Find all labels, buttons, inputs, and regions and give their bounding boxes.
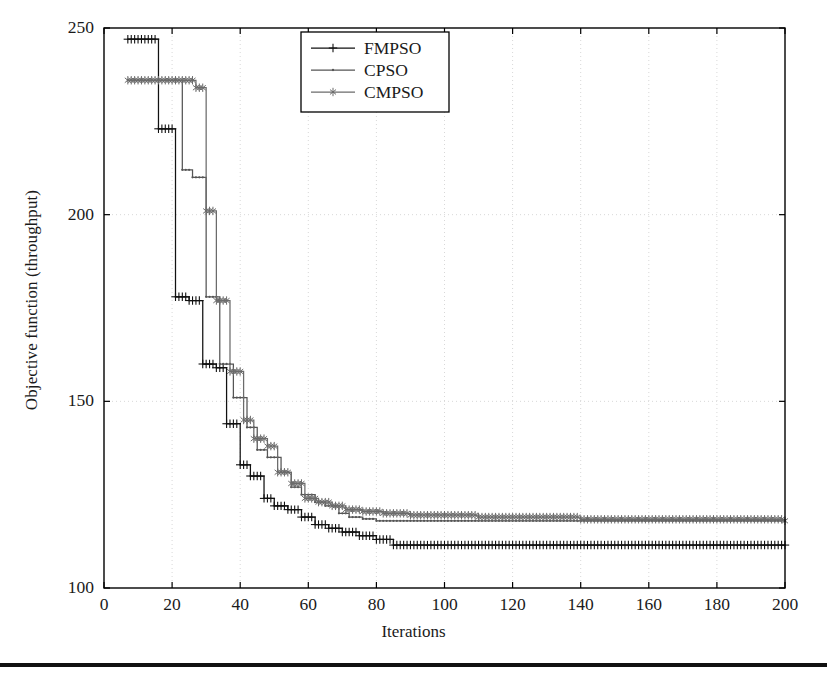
x-tick-label-140: 140: [551, 594, 611, 615]
chart-legend: FMPSOCPSOCMPSO: [301, 32, 449, 112]
x-tick-label-120: 120: [483, 594, 543, 615]
legend-label-fmpso: FMPSO: [364, 38, 421, 58]
series-fmpso: [124, 35, 790, 549]
x-tick-label-20: 20: [142, 594, 202, 615]
legend-label-cmpso: CMPSO: [364, 82, 423, 102]
x-tick-label-40: 40: [210, 594, 270, 615]
y-tick-label-150: 150: [26, 390, 94, 411]
bottom-rule: [0, 663, 827, 667]
x-tick-label-100: 100: [415, 594, 475, 615]
x-tick-label-160: 160: [619, 594, 679, 615]
x-tick-label-60: 60: [278, 594, 338, 615]
legend-label-cpso: CPSO: [364, 60, 408, 80]
x-tick-label-180: 180: [687, 594, 747, 615]
x-axis-label: Iterations: [0, 622, 827, 642]
x-tick-label-200: 200: [755, 594, 815, 615]
y-tick-label-250: 250: [26, 17, 94, 38]
series-cmpso: [125, 76, 788, 525]
y-tick-label-100: 100: [26, 577, 94, 598]
x-tick-label-80: 80: [346, 594, 406, 615]
y-axis-label: Objective function (throughput): [22, 120, 42, 480]
y-tick-label-200: 200: [26, 204, 94, 225]
figure-container: FMPSOCPSOCMPSO Objective function (throu…: [0, 0, 827, 689]
chart-plot-area: FMPSOCPSOCMPSO: [0, 0, 827, 689]
